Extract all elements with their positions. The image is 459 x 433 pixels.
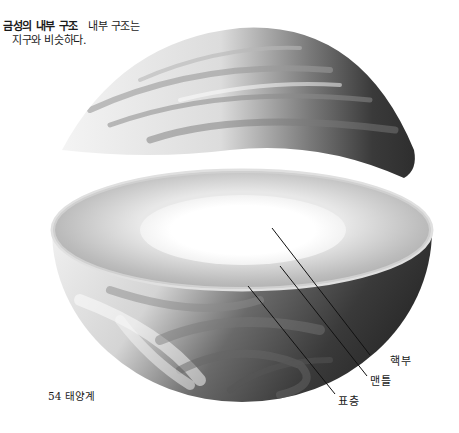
venus-cutaway-illustration bbox=[0, 0, 459, 433]
crust-label: 표층 bbox=[338, 392, 359, 408]
core-layer bbox=[140, 195, 346, 265]
upper-hemisphere bbox=[62, 28, 415, 178]
page-footer: 54 태양계 bbox=[48, 388, 95, 403]
mantle-label: 맨틀 bbox=[370, 372, 391, 388]
core-label: 핵부 bbox=[390, 352, 411, 368]
